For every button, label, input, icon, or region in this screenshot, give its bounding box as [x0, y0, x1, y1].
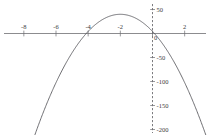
- y-axis-tick-label: 50: [157, 6, 164, 13]
- x-axis-tick-label: 2: [183, 23, 186, 30]
- x-axis-tick-label: -6: [53, 23, 59, 30]
- y-axis-tick-label: -50: [157, 54, 166, 61]
- chart-plot-area: -8-6-4-2024 50-50-100-150-200: [0, 0, 209, 135]
- y-axis-tick-label: -150: [157, 102, 169, 109]
- y-axis-tick-label: -200: [157, 126, 169, 133]
- y-axis-tick-label: -100: [157, 78, 169, 85]
- x-axis-tick-label: -8: [21, 23, 26, 30]
- chart-background: [0, 0, 209, 135]
- x-axis-tick-label: -2: [118, 23, 123, 30]
- parabola-chart: -8-6-4-2024 50-50-100-150-200: [0, 0, 209, 135]
